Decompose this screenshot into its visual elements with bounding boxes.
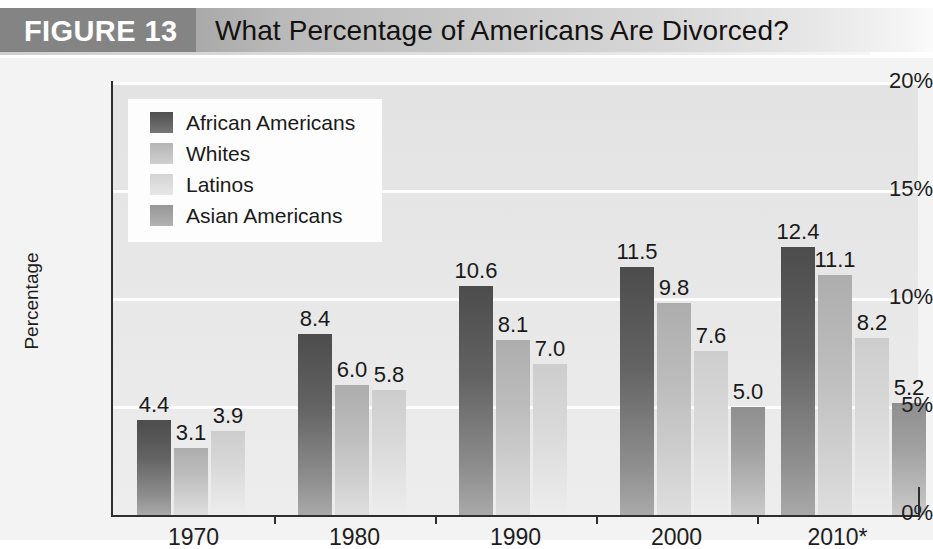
y-tick-label: 20% xyxy=(835,68,933,94)
y-axis-line xyxy=(111,81,113,517)
bar: 7.6 xyxy=(694,351,728,515)
bar: 3.9 xyxy=(211,431,245,515)
y-axis-title: Percentage xyxy=(21,221,43,381)
bar-value-label: 3.1 xyxy=(176,420,207,446)
x-tick-label: 2000 xyxy=(597,524,757,549)
bar: 10.6 xyxy=(459,286,493,515)
bar: 6.0 xyxy=(335,385,369,515)
legend-item: Whites xyxy=(150,138,382,169)
bar: 3.1 xyxy=(174,448,208,515)
bar-value-label: 10.6 xyxy=(455,258,498,284)
legend-swatch-african-americans xyxy=(150,112,173,133)
legend-label: Whites xyxy=(186,142,250,166)
bar-value-label: 7.0 xyxy=(535,336,566,362)
y-tick-label: 5% xyxy=(835,392,933,418)
x-tick-label: 2010* xyxy=(758,524,918,549)
bar: 4.4 xyxy=(137,420,171,515)
x-axis-tick xyxy=(435,515,437,524)
chart-container: 4.43.13.98.46.05.810.68.17.011.59.87.65.… xyxy=(0,58,933,540)
bar-value-label: 8.1 xyxy=(498,312,529,338)
bar-value-label: 8.4 xyxy=(300,306,331,332)
bar: 5.0 xyxy=(731,407,765,515)
legend-label: Asian Americans xyxy=(186,204,342,228)
legend-item: African Americans xyxy=(150,107,382,138)
chart-legend: African Americans Whites Latinos Asian A… xyxy=(128,99,382,242)
y-tick-label: 15% xyxy=(835,176,933,202)
x-axis-tick xyxy=(757,515,759,524)
y-tick-label: 10% xyxy=(835,284,933,310)
legend-swatch-latinos xyxy=(150,174,173,195)
bar: 7.0 xyxy=(533,364,567,515)
bar: 11.5 xyxy=(620,267,654,515)
x-tick-label: 1970 xyxy=(114,524,274,549)
bar-value-label: 9.8 xyxy=(659,275,690,301)
legend-swatch-asian-americans xyxy=(150,205,173,226)
bar-value-label: 5.8 xyxy=(374,362,405,388)
bar: 8.1 xyxy=(496,340,530,515)
legend-item: Latinos xyxy=(150,169,382,200)
legend-item: Asian Americans xyxy=(150,200,382,231)
x-tick-label: 1990 xyxy=(436,524,596,549)
bar: 5.8 xyxy=(372,390,406,515)
figure-banner: FIGURE 13 What Percentage of Americans A… xyxy=(0,8,933,52)
bar: 8.2 xyxy=(855,338,889,515)
bar-value-label: 4.4 xyxy=(139,392,170,418)
bar: 5.2 xyxy=(892,403,926,515)
bar-value-label: 5.0 xyxy=(733,379,764,405)
bar: 9.8 xyxy=(657,303,691,515)
x-axis-tick xyxy=(274,515,276,524)
bar-value-label: 8.2 xyxy=(857,310,888,336)
gridline xyxy=(113,82,918,85)
bar-value-label: 11.1 xyxy=(814,247,855,273)
figure-title: What Percentage of Americans Are Divorce… xyxy=(215,15,789,47)
bar: 12.4 xyxy=(781,247,815,515)
figure-number-label: FIGURE 13 xyxy=(24,15,177,48)
x-axis-tick xyxy=(596,515,598,524)
x-axis-tick xyxy=(918,487,920,517)
x-axis-line xyxy=(111,515,920,517)
legend-label: African Americans xyxy=(186,111,355,135)
x-tick-label: 1980 xyxy=(275,524,435,549)
bar-value-label: 12.4 xyxy=(777,219,820,245)
bar-value-label: 7.6 xyxy=(696,323,727,349)
legend-swatch-whites xyxy=(150,143,173,164)
bar-value-label: 6.0 xyxy=(337,357,368,383)
legend-label: Latinos xyxy=(186,173,254,197)
bar-value-label: 11.5 xyxy=(616,239,657,265)
bar-value-label: 3.9 xyxy=(213,403,244,429)
bar: 8.4 xyxy=(298,334,332,515)
